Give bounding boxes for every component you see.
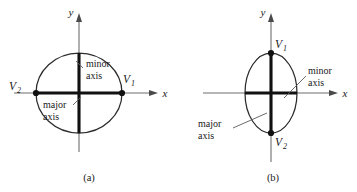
vertex-v1-subscript-b: 1 <box>283 44 287 53</box>
y-axis-arrowhead-a <box>76 13 82 22</box>
panel-a-horizontal-ellipse: y x V 2 V 1 minor axis major axis (a) <box>0 0 178 192</box>
y-axis-arrowhead-b <box>268 13 274 22</box>
vertex-v2-subscript-b: 2 <box>283 142 287 151</box>
minor-axis-label-line1-b: minor <box>308 65 333 76</box>
major-axis-label-line2-b: axis <box>198 130 214 141</box>
vertex-v2-dot-b <box>268 130 274 136</box>
panel-b-vertical-ellipse: y x V 1 V 2 minor axis major axis (b) <box>178 0 357 192</box>
vertex-v1-dot-b <box>268 50 274 56</box>
major-axis-label-line1-b: major <box>198 118 222 129</box>
ellipse-figure: y x V 2 V 1 minor axis major axis (a) <box>0 0 357 192</box>
vertex-v2-dot-a <box>33 90 39 96</box>
vertex-v1-dot-a <box>119 90 125 96</box>
x-axis-label-a: x <box>162 87 168 99</box>
x-axis-arrowhead-b <box>329 90 338 96</box>
major-axis-label-line2-a: axis <box>43 111 59 122</box>
x-axis-label-b: x <box>342 87 348 99</box>
y-axis-label-a: y <box>68 6 74 18</box>
y-axis-label-b: y <box>260 6 266 18</box>
minor-axis-label-line1-a: minor <box>86 58 111 69</box>
vertex-v2-subscript-a: 2 <box>17 86 21 95</box>
caption-b: (b) <box>267 172 280 184</box>
minor-axis-label-line2-a: axis <box>86 70 102 81</box>
minor-axis-label-line2-b: axis <box>308 77 324 88</box>
vertex-v1-subscript-a: 1 <box>131 79 135 88</box>
major-axis-label-line1-a: major <box>43 99 67 110</box>
caption-a: (a) <box>83 172 95 184</box>
x-axis-arrowhead-a <box>149 90 158 96</box>
